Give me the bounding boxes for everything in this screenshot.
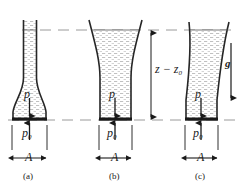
panel-c-pressure-label: p bbox=[195, 88, 201, 100]
panel-b-pressure-label: p bbox=[109, 88, 115, 100]
panel-c-caption: (c) bbox=[195, 172, 205, 181]
panel-c-area-label: A bbox=[197, 151, 204, 163]
gravity-label: g bbox=[225, 58, 231, 69]
panel-a-base-pressure-label: p0 bbox=[22, 127, 32, 139]
panel-b-area-label: A bbox=[111, 151, 118, 163]
panel-b-base-pressure-label: p0 bbox=[107, 127, 117, 139]
panel-c-base-pressure-subscript: 0 bbox=[199, 133, 203, 141]
panel-b-caption: (b) bbox=[109, 172, 120, 181]
panel-a-base-pressure-subscript: 0 bbox=[28, 133, 32, 141]
panel-c-vessel bbox=[185, 22, 229, 121]
height-label: z − z0 bbox=[155, 63, 182, 75]
panel-a-pressure-label: p bbox=[24, 88, 30, 100]
height-label-subscript: 0 bbox=[178, 69, 182, 77]
height-label-symbol: z − z bbox=[155, 62, 178, 76]
panel-a-area-label: A bbox=[25, 151, 32, 163]
panel-b-base-pressure-subscript: 0 bbox=[113, 133, 117, 141]
panel-a-caption: (a) bbox=[23, 172, 33, 181]
panel-c-base-pressure-label: p0 bbox=[193, 127, 203, 139]
hydrostatic-pressure-figure bbox=[0, 0, 242, 189]
